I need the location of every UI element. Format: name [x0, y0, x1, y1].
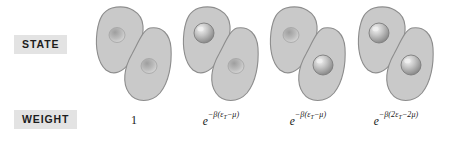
lower-site-empty-dimple — [141, 59, 157, 74]
sphere-highlight — [372, 27, 378, 32]
weight-value-1: 1 — [88, 108, 180, 132]
weight-row-label: WEIGHT — [14, 110, 77, 129]
weight-expression: e−β(2εT−2μ) — [374, 113, 419, 127]
exponent-suffix: −μ) — [227, 110, 239, 119]
lobes-svg — [88, 2, 180, 106]
two-lobe-shape — [350, 2, 442, 106]
weight-value-4: e−β(2εT−2μ) — [350, 108, 442, 132]
state-diagram-2 — [175, 2, 267, 106]
state-diagram-3 — [262, 2, 354, 106]
state-diagram-4 — [350, 2, 442, 106]
exponent-prefix: −β(ε — [208, 110, 224, 119]
weight-exponent: −β(2εT−2μ) — [379, 110, 419, 119]
lobes-svg — [175, 2, 267, 106]
exponent-suffix: −2μ) — [402, 110, 418, 119]
weight-value-3: e−β(εT−μ) — [262, 108, 354, 132]
two-lobe-shape — [175, 2, 267, 106]
two-lobe-shape — [88, 2, 180, 106]
lower-site-occupied-sphere — [313, 55, 333, 75]
weight-value-2: e−β(εT−μ) — [175, 108, 267, 132]
sphere-highlight — [404, 59, 410, 64]
exponent-prefix: −β(ε — [295, 110, 311, 119]
upper-site-occupied-sphere — [194, 23, 214, 43]
state-row-label: STATE — [14, 35, 67, 54]
upper-site-empty-dimple — [283, 28, 299, 43]
weight-exponent: −β(εT−μ) — [295, 110, 326, 119]
lower-site-empty-dimple — [228, 59, 244, 74]
exponent-subscript: T — [310, 114, 313, 120]
two-lobe-shape — [262, 2, 354, 106]
sphere-highlight — [316, 59, 322, 64]
exponent-suffix: −μ) — [314, 110, 326, 119]
upper-site-empty-dimple — [109, 28, 125, 43]
lobes-svg — [350, 2, 442, 106]
weight-expression: e−β(εT−μ) — [203, 113, 240, 127]
weight-text: 1 — [131, 113, 137, 128]
state-diagram-1 — [88, 2, 180, 106]
exponent-subscript: T — [398, 114, 401, 120]
weight-expression: e−β(εT−μ) — [290, 113, 327, 127]
exponent-prefix: −β(2ε — [379, 110, 399, 119]
lower-site-occupied-sphere — [401, 55, 421, 75]
state-weight-figure: STATE WEIGHT — [0, 0, 460, 142]
lobes-svg — [262, 2, 354, 106]
exponent-subscript: T — [223, 114, 226, 120]
sphere-highlight — [197, 27, 203, 32]
upper-site-occupied-sphere — [369, 23, 389, 43]
weight-exponent: −β(εT−μ) — [208, 110, 239, 119]
